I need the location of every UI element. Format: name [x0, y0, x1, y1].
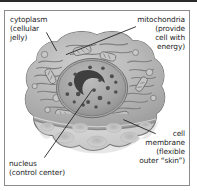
figure-frame: cytoplasm (cellular jelly) mitochondria … [4, 10, 190, 186]
label-mitochondria: mitochondria (provide cell with energy) [137, 15, 185, 51]
label-nucleus: nucleus (control center) [9, 159, 65, 177]
top-rule-divider [0, 0, 197, 2]
nucleus-shape [56, 58, 127, 117]
label-cell-membrane: cell membrane (flexible outer “skin”) [139, 129, 185, 165]
cell-diagram-figure: cytoplasm (cellular jelly) mitochondria … [0, 0, 197, 191]
label-cytoplasm: cytoplasm (cellular jelly) [10, 15, 47, 42]
